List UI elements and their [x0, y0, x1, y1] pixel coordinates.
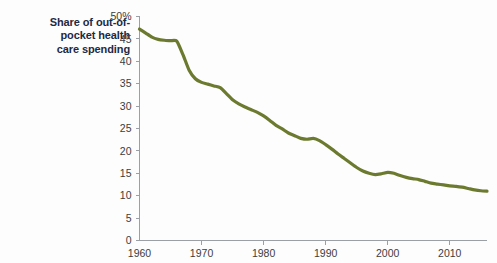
x-tick-label: 1980 [252, 247, 276, 259]
y-tick-label: 15 [120, 167, 132, 179]
y-tick-label: 45 [120, 33, 132, 45]
y-tick-label: 10 [120, 189, 132, 201]
y-tick-label: 25 [120, 122, 132, 134]
x-tick-label: 1960 [128, 247, 152, 259]
y-tick-label: 40 [120, 55, 132, 67]
x-tick-label: 1970 [190, 247, 214, 259]
x-tick-label: 1990 [314, 247, 338, 259]
y-tick-label: 0 [126, 234, 132, 246]
y-tick-label: 5 [126, 212, 132, 224]
y-tick-label: 50% [110, 10, 131, 22]
y-tick-label: 20 [120, 145, 132, 157]
y-tick-label: 30 [120, 100, 132, 112]
line-chart-plot: 05101520253035404550%1960197019801990200… [0, 0, 497, 263]
series-line-0 [140, 29, 488, 191]
x-tick-label: 2010 [438, 247, 462, 259]
x-tick-label: 2000 [376, 247, 400, 259]
y-tick-label: 35 [120, 77, 132, 89]
chart-figure: Share of out-of- pocket health care spen… [0, 0, 497, 263]
